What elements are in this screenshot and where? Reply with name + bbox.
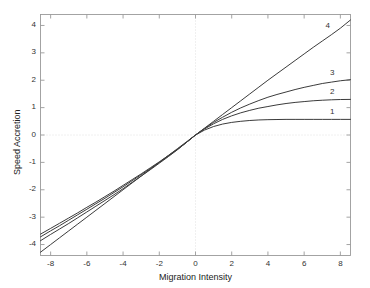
- series-label-2: 2: [330, 87, 334, 96]
- y-tick-label: 4: [18, 20, 36, 29]
- x-tick-label: -6: [78, 259, 96, 268]
- x-axis-title: Migration Intensity: [41, 272, 351, 282]
- series-label-1: 1: [330, 107, 334, 116]
- y-tick-label: -3: [18, 212, 36, 221]
- x-tick-label: -8: [42, 259, 60, 268]
- y-tick-label: 0: [18, 130, 36, 139]
- y-tick-label: -4: [18, 239, 36, 248]
- y-tick-label: -2: [18, 184, 36, 193]
- x-tick-label: -4: [114, 259, 132, 268]
- series-label-3: 3: [330, 68, 334, 77]
- x-tick-label: 8: [331, 259, 349, 268]
- x-tick-label: 4: [259, 259, 277, 268]
- x-tick-label: -2: [150, 259, 168, 268]
- figure-canvas: Speed Accretion Migration Intensity -8-6…: [0, 0, 370, 288]
- x-tick-label: 0: [187, 259, 205, 268]
- x-tick-label: 6: [295, 259, 313, 268]
- x-tick-label: 2: [223, 259, 241, 268]
- chart-plot-area: [0, 0, 370, 288]
- series-label-4: 4: [326, 21, 330, 30]
- y-tick-label: 1: [18, 102, 36, 111]
- y-tick-label: 3: [18, 47, 36, 56]
- y-tick-label: 2: [18, 75, 36, 84]
- y-tick-label: -1: [18, 157, 36, 166]
